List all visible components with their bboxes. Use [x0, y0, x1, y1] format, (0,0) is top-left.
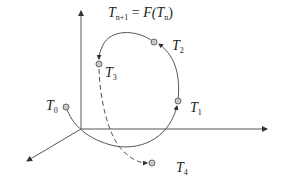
point-t0: [63, 104, 69, 110]
point-t4: [149, 160, 155, 166]
axes: [27, 11, 267, 161]
point-t2: [151, 39, 157, 45]
point-t3: [96, 61, 102, 67]
label-t3: T3: [105, 65, 117, 82]
label-t4: T4: [176, 160, 188, 177]
segment-t0-t1: [66, 106, 177, 147]
label-t0: T0: [46, 98, 58, 115]
label-t1: T1: [190, 100, 202, 117]
fixed-point-iteration-diagram: T0 T1 T2 T3 T4 Tn+1 = F(Tn): [0, 0, 282, 187]
segment-t3-t4: [99, 69, 147, 163]
label-t2: T2: [172, 38, 184, 55]
trajectory: [66, 33, 179, 163]
iteration-equation: Tn+1 = F(Tn): [108, 5, 173, 22]
depth-axis: [27, 129, 81, 161]
segment-t2-t3: [99, 33, 154, 59]
point-t1: [175, 98, 181, 104]
